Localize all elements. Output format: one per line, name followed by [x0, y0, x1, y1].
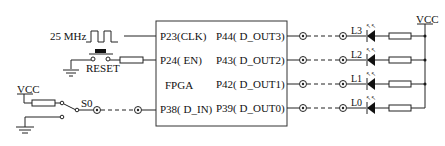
led-icon: ↖↖: [366, 94, 376, 114]
fpga-name: FPGA: [165, 79, 193, 91]
led-l2-label: L2: [351, 49, 362, 60]
svg-text:↖↖: ↖↖: [366, 94, 376, 101]
resistor-icon: [32, 100, 55, 106]
switch-ground-wire: [25, 117, 60, 127]
circuit-diagram: 25 MHz RESET VCC S0: [0, 0, 445, 146]
connector-icon: [135, 107, 142, 114]
clock-waveform-icon: [86, 31, 118, 42]
svg-text:↖↖: ↖↖: [366, 70, 376, 77]
pin-p42-label: P42( D_OUT1): [216, 78, 285, 91]
pin-p39-label: P39( D_OUT0): [216, 102, 285, 115]
resistor-icon: [389, 57, 411, 63]
clock-label: 25 MHz: [50, 30, 86, 42]
led-l0-label: L0: [351, 97, 362, 108]
pin-p24-label: P24( EN): [160, 54, 202, 67]
pin-p44-label: P44( D_OUT3): [216, 30, 285, 43]
led-icon: ↖↖: [366, 46, 376, 66]
vcc-left-wire: [24, 94, 32, 103]
ground-icon: [63, 70, 79, 76]
led-icon: ↖↖: [366, 70, 376, 90]
svg-text:↖↖: ↖↖: [366, 46, 376, 53]
vcc-right-label: VCC: [416, 13, 439, 25]
svg-text:↖↖: ↖↖: [366, 22, 376, 29]
switch-icon: [60, 101, 79, 119]
pin-p23-label: P23(CLK): [160, 30, 207, 43]
resistor-icon: [389, 81, 411, 87]
connector-icon: [94, 107, 101, 114]
resistor-icon: [120, 57, 143, 63]
led-l1-label: L1: [351, 73, 362, 84]
switch-label: S0: [81, 97, 93, 109]
reset-button-icon: [89, 49, 113, 61]
ground-icon: [16, 127, 34, 133]
pin-p43-label: P43( D_OUT2): [216, 54, 285, 67]
resistor-icon: [389, 33, 411, 39]
led-l3-label: L3: [351, 25, 362, 36]
resistor-icon: [389, 105, 411, 111]
reset-label: RESET: [86, 62, 120, 74]
led-icon: ↖↖: [366, 22, 376, 42]
vcc-left-label: VCC: [17, 83, 40, 95]
pin-p38-label: P38( D_IN): [160, 103, 213, 116]
